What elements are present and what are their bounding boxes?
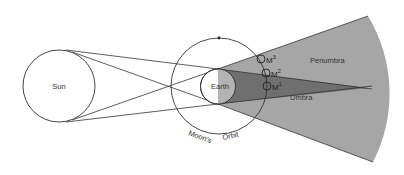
moons-orbit-label-word2: Orbit — [222, 130, 241, 142]
moon-sup: 1 — [279, 81, 282, 87]
umbra-label: Umbra — [290, 93, 313, 102]
sun-label: Sun — [52, 82, 65, 91]
penumbra-label: Penumbra — [310, 56, 345, 65]
moons-orbit-label-word1: Moon's — [187, 128, 213, 145]
moon-sup: 2 — [278, 68, 281, 74]
moon-sup: 3 — [273, 54, 276, 60]
orbit-direction-dot — [218, 37, 221, 40]
earth-label: Earth — [211, 82, 229, 91]
eclipse-diagram: Sun Earth M3 M2 M1 Penumbra Umbra Moon's… — [0, 0, 404, 175]
